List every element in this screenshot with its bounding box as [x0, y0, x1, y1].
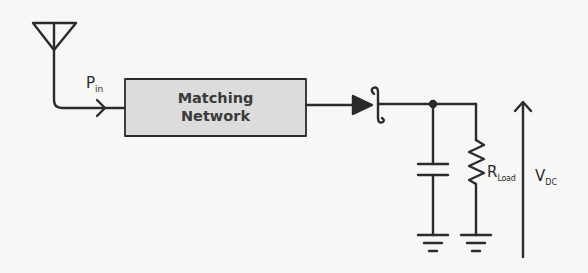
output-voltage-sub: DC — [545, 178, 557, 187]
load-resistor-main: R — [487, 163, 497, 181]
load-resistor-label: RLoad — [487, 163, 515, 183]
antenna-icon — [33, 23, 76, 50]
matching-network-line2: Network — [181, 107, 250, 125]
output-voltage-label: VDC — [535, 167, 557, 187]
ground-icon — [418, 235, 448, 251]
matching-network-label: Matching Network — [125, 78, 306, 136]
circuit-diagram — [0, 0, 588, 273]
capacitor-icon — [418, 104, 448, 235]
input-power-main: P — [86, 74, 95, 92]
input-power-label: Pin — [86, 74, 103, 94]
matching-network-line1: Matching — [178, 89, 254, 107]
voltage-arrow-icon — [515, 102, 531, 257]
ground-icon — [461, 235, 491, 251]
load-resistor-sub: Load — [497, 174, 515, 183]
output-voltage-main: V — [535, 167, 545, 185]
resistor-icon — [469, 104, 484, 235]
input-power-sub: in — [95, 84, 103, 94]
